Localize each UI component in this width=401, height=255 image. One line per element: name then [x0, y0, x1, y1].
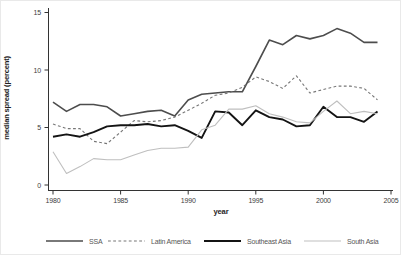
series-line-latin-america [53, 76, 378, 144]
y-axis-tick-label: 0 [37, 182, 41, 189]
legend-label-ssa: SSA [89, 238, 103, 245]
x-axis-tick-label: 1985 [113, 197, 128, 204]
plot-layer: 051015198019851990199520002005 [34, 8, 399, 204]
legend-label-latin-america: Latin America [151, 238, 191, 245]
y-axis-tick-label: 10 [34, 67, 42, 74]
y-axis-tick-label: 5 [37, 124, 41, 131]
y-axis-title: median spread (percent) [2, 56, 11, 140]
legend-label-south-asia: South Asia [347, 238, 379, 245]
x-axis-tick-label: 1990 [181, 197, 196, 204]
x-axis-tick-label: 2000 [316, 197, 331, 204]
series-line-southeast-asia [53, 107, 378, 138]
y-axis-tick-label: 15 [34, 9, 42, 16]
x-axis-tick-label: 1980 [46, 197, 61, 204]
x-axis-title: year [214, 207, 229, 216]
median-spread-line-chart: 051015198019851990199520002005 median sp… [0, 0, 401, 255]
series-line-ssa [53, 29, 378, 116]
x-axis-tick-label: 2005 [384, 197, 399, 204]
chart-legend: SSALatin AmericaSoutheast AsiaSouth Asia [46, 238, 379, 245]
chart-canvas: 051015198019851990199520002005 median sp… [0, 0, 401, 255]
x-axis-tick-label: 1995 [248, 197, 263, 204]
legend-label-southeast-asia: Southeast Asia [247, 238, 291, 245]
